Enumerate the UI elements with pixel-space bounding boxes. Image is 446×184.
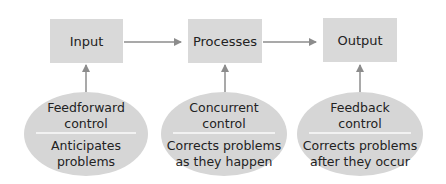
- concurrent-control-ellipse: Concurrent control Corrects problems as …: [161, 92, 287, 176]
- divider: [173, 132, 275, 134]
- feedforward-title: Feedforward control: [24, 100, 148, 132]
- feedforward-control-ellipse: Feedforward control Anticipates problems: [24, 92, 148, 176]
- output-box: Output: [323, 18, 397, 62]
- concurrent-description: Corrects problems as they happen: [161, 138, 287, 170]
- concurrent-title: Concurrent control: [161, 100, 287, 132]
- output-label: Output: [337, 33, 382, 48]
- processes-label: Processes: [193, 34, 257, 49]
- processes-box: Processes: [188, 19, 262, 63]
- divider: [309, 132, 411, 134]
- feedback-description: Corrects problems after they occur: [297, 138, 423, 170]
- feedforward-description: Anticipates problems: [24, 138, 148, 170]
- input-label: Input: [70, 34, 104, 49]
- divider: [36, 132, 136, 134]
- feedback-control-ellipse: Feedback control Corrects problems after…: [297, 92, 423, 176]
- feedback-title: Feedback control: [297, 100, 423, 132]
- input-box: Input: [50, 19, 123, 63]
